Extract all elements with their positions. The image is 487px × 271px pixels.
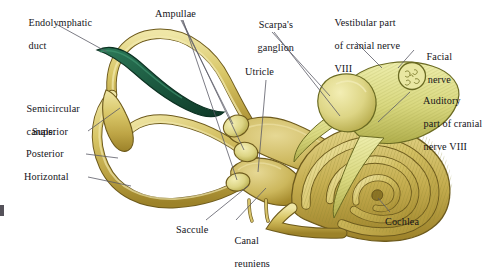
label-saccule: Saccule bbox=[176, 224, 208, 235]
label-cochlea: Cochlea bbox=[385, 216, 419, 227]
label-line: ganglion bbox=[258, 42, 294, 53]
label-line: Auditory bbox=[423, 95, 461, 106]
label-auditory-part-cranial-nerve: Auditory part of cranial nerve VIII bbox=[413, 84, 482, 164]
label-superior-canal: Superior bbox=[32, 126, 68, 137]
label-line: Scarpa's bbox=[259, 19, 293, 30]
label-line: reuniens bbox=[235, 258, 270, 269]
label-line: VIII bbox=[334, 63, 352, 74]
label-posterior-canal: Posterior bbox=[26, 148, 64, 159]
common-crus bbox=[103, 90, 134, 151]
label-scarpas-ganglion: Scarpa's ganglion bbox=[247, 8, 294, 65]
label-line: nerve VIII bbox=[424, 141, 468, 152]
label-line: part of cranial bbox=[424, 118, 483, 129]
label-line: of cranial nerve bbox=[335, 40, 401, 51]
label-endolymphatic-duct: Endolymphatic duct bbox=[18, 6, 92, 63]
label-semicircular-canals: Semicircular canals: bbox=[16, 92, 80, 149]
label-canal-reuniens: Canal reuniens bbox=[224, 224, 270, 271]
leader-ampullae-3 bbox=[183, 20, 237, 180]
label-line: Vestibular part bbox=[334, 17, 395, 28]
page-edge-mark bbox=[0, 205, 4, 216]
label-utricle: Utricle bbox=[245, 66, 274, 77]
label-vestibular-part-cranial-nerve: Vestibular part of cranial nerve VIII bbox=[324, 6, 400, 86]
label-line: Endolymphatic bbox=[29, 17, 93, 28]
label-line: Canal bbox=[235, 235, 259, 246]
label-ampullae: Ampullae bbox=[155, 8, 196, 19]
label-line: Semicircular bbox=[27, 103, 80, 114]
label-horizontal-canal: Horizontal bbox=[24, 171, 69, 182]
label-line: duct bbox=[29, 40, 47, 51]
label-line: Facial bbox=[427, 51, 453, 62]
